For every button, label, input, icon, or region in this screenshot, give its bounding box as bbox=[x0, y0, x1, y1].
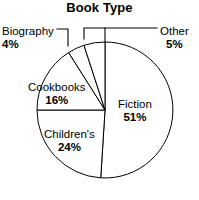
slice-label-fiction: Fiction 51% bbox=[118, 98, 152, 124]
slice-label-childrens-name: Children's bbox=[44, 128, 95, 141]
slice-label-biography-value: 4% bbox=[2, 38, 54, 51]
leader-line-biography bbox=[57, 29, 68, 46]
slice-label-cookbooks: Cookbooks 16% bbox=[28, 81, 86, 107]
slice-label-childrens-value: 24% bbox=[44, 141, 95, 154]
pie-chart-figure: Book Type Biography 4% Other 5% Cookbook… bbox=[0, 0, 199, 200]
slice-label-childrens: Children's 24% bbox=[44, 128, 95, 154]
slice-label-biography: Biography 4% bbox=[2, 25, 54, 51]
slice-label-other-name: Other bbox=[160, 25, 189, 38]
slice-label-other-value: 5% bbox=[160, 38, 189, 51]
slice-label-cookbooks-value: 16% bbox=[28, 94, 86, 107]
slice-label-fiction-value: 51% bbox=[118, 111, 152, 124]
leader-line-other bbox=[84, 28, 157, 39]
slice-label-other: Other 5% bbox=[160, 25, 189, 51]
slice-label-fiction-name: Fiction bbox=[118, 98, 152, 111]
slice-label-cookbooks-name: Cookbooks bbox=[28, 81, 86, 94]
slice-label-biography-name: Biography bbox=[2, 25, 54, 38]
